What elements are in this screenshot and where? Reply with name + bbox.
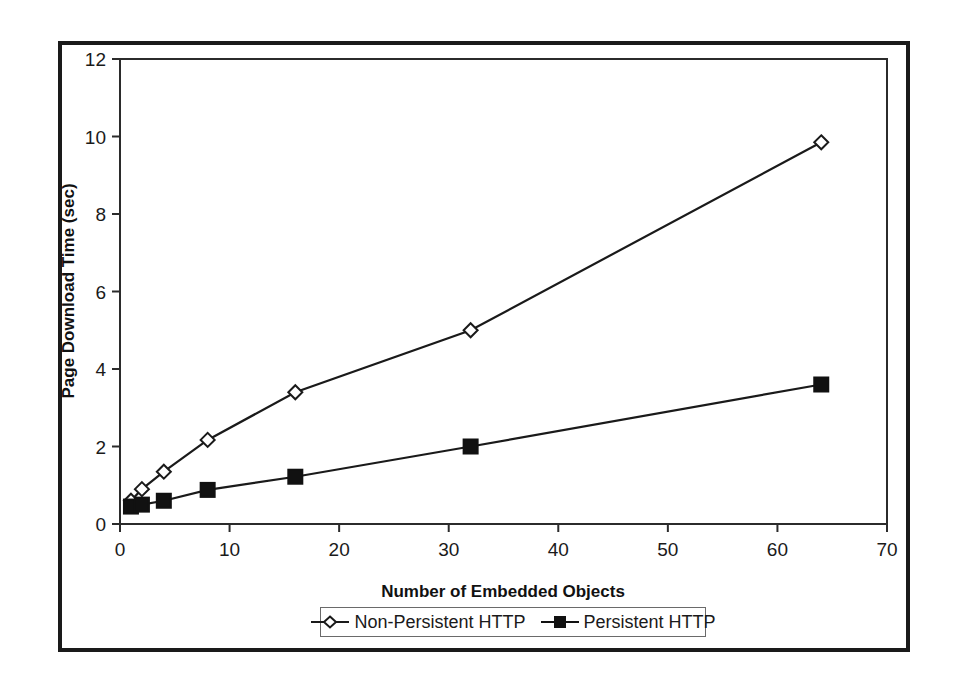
- open-diamond-marker-icon: [310, 615, 350, 629]
- series-2: [124, 378, 828, 514]
- y-tick-label: 2: [95, 437, 106, 458]
- y-axis-ticks: [112, 59, 120, 524]
- x-tick-label: 60: [767, 539, 788, 560]
- legend-label-persistent-http: Persistent HTTP: [584, 612, 716, 633]
- data-point-marker: [814, 135, 828, 149]
- series-layer: [124, 135, 828, 513]
- legend-item-persistent-http: Persistent HTTP: [540, 612, 716, 633]
- chart-legend: Non-Persistent HTTP Persistent HTTP: [320, 607, 706, 637]
- x-tick-label: 40: [548, 539, 569, 560]
- y-tick-label: 12: [85, 49, 106, 70]
- data-point-marker: [288, 385, 302, 399]
- x-axis-tick-labels: 010203040506070: [115, 539, 898, 560]
- x-tick-label: 10: [219, 539, 240, 560]
- x-tick-label: 30: [438, 539, 459, 560]
- y-tick-label: 0: [95, 514, 106, 535]
- y-tick-label: 8: [95, 204, 106, 225]
- y-axis-title: Page Download Time (sec): [59, 183, 78, 398]
- x-tick-label: 20: [329, 539, 350, 560]
- x-tick-label: 70: [876, 539, 897, 560]
- filled-square-marker-icon: [540, 615, 580, 629]
- legend-label-non-persistent-http: Non-Persistent HTTP: [354, 612, 525, 633]
- x-tick-label: 0: [115, 539, 126, 560]
- x-axis-ticks: [120, 524, 887, 532]
- x-axis-title: Number of Embedded Objects: [381, 582, 625, 601]
- chart-canvas: 024681012 010203040506070 Number of Embe…: [0, 0, 958, 681]
- data-point-marker: [201, 483, 215, 497]
- data-point-marker: [464, 323, 478, 337]
- y-tick-label: 4: [95, 359, 106, 380]
- y-tick-label: 6: [95, 282, 106, 303]
- x-tick-label: 50: [657, 539, 678, 560]
- data-point-marker: [288, 470, 302, 484]
- legend-item-non-persistent-http: Non-Persistent HTTP: [310, 612, 525, 633]
- y-axis-tick-labels: 024681012: [85, 49, 107, 535]
- data-point-marker: [464, 440, 478, 454]
- plot-area-border: [120, 59, 887, 524]
- data-point-marker: [814, 378, 828, 392]
- data-point-marker: [135, 498, 149, 512]
- data-point-marker: [157, 494, 171, 508]
- figure-container: 024681012 010203040506070 Number of Embe…: [0, 0, 958, 681]
- y-tick-label: 10: [85, 127, 106, 148]
